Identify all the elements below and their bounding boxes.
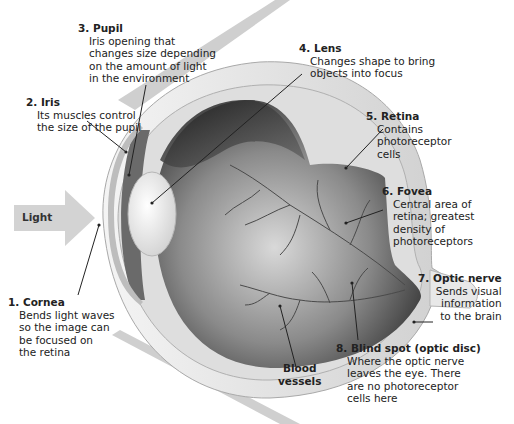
lens	[128, 172, 176, 256]
label-blind-spot-title: Blind spot (optic disc)	[351, 342, 481, 354]
label-fovea: 6. Fovea Central area of retina; greates…	[382, 185, 474, 248]
label-lens: 4. Lens Changes shape to bring objects i…	[299, 42, 435, 80]
label-optic-nerve-title: Optic nerve	[433, 272, 502, 284]
label-pupil: 3. Pupil Iris opening that changes size …	[78, 22, 216, 85]
label-cornea: 1. Cornea Bends light waves so the image…	[8, 296, 115, 359]
label-fovea-title: Fovea	[397, 185, 432, 197]
label-retina-title: Retina	[381, 110, 419, 122]
label-iris: 2. Iris Its muscles control the size of …	[26, 96, 141, 134]
label-blood-vessels: Blood vessels	[278, 362, 321, 387]
label-optic-nerve: 7. Optic nerve Sends visual information …	[418, 272, 502, 322]
label-lens-title: Lens	[314, 42, 342, 54]
label-pupil-title: Pupil	[93, 22, 123, 34]
light-label: Light	[22, 211, 52, 223]
label-cornea-title: Cornea	[23, 296, 65, 308]
label-blind-spot: 8. Blind spot (optic disc) Where the opt…	[336, 342, 481, 405]
label-iris-title: Iris	[41, 96, 60, 108]
label-retina: 5. Retina Contains photoreceptor cells	[366, 110, 452, 160]
eye-diagram: Light 3. Pupil Iris opening that changes…	[0, 0, 514, 424]
